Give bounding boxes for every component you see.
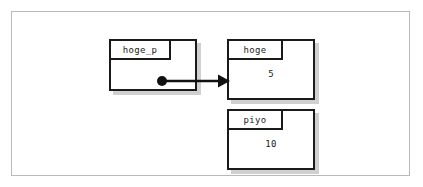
pointer-arrow-hoge-p-to-hoge	[156, 70, 232, 92]
object-value-piyo: 10	[229, 139, 313, 149]
object-label-hoge-p: hoge_p	[109, 39, 171, 60]
object-box-hoge[interactable]: hoge 5	[227, 39, 315, 100]
pointer-arrowhead-icon	[218, 75, 230, 88]
object-label-hoge: hoge	[227, 39, 283, 60]
diagram-canvas: hoge_p hoge 5 piyo 10	[0, 0, 423, 187]
object-label-piyo: piyo	[227, 109, 283, 130]
object-box-piyo[interactable]: piyo 10	[227, 109, 315, 170]
diagram-frame: hoge_p hoge 5 piyo 10	[11, 11, 410, 176]
object-value-hoge: 5	[229, 69, 313, 79]
